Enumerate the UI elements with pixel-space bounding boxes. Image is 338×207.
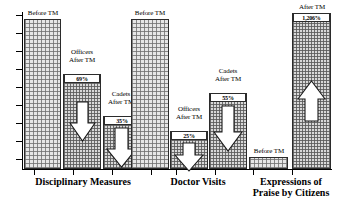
bar-doctor-before-tm	[131, 19, 169, 169]
bar-caption-praise-after-tm: After TM	[288, 3, 336, 11]
bar-value-praise-after-tm: 1,206%	[293, 13, 330, 22]
bar-caption-praise-before-tm: Before TM	[245, 147, 293, 155]
category-label-doctor-visits: Doctor Visits	[150, 176, 246, 187]
y-axis-tick	[16, 69, 22, 70]
up-arrow-icon-praise-after-tm	[297, 80, 326, 122]
bar-caption-doctor-cadets-after-tm: Cadets After TM	[204, 67, 252, 83]
bar-caption-doctor-officers-after-tm: Officers After TM	[165, 105, 213, 121]
y-axis-tick	[16, 159, 22, 160]
bar-caption-disciplinary-before-tm: Before TM	[20, 9, 66, 17]
bar-value-disciplinary-officers-after-tm: 69%	[64, 74, 100, 83]
y-axis-tick	[16, 105, 22, 106]
down-arrow-icon-doctor-cadets	[213, 105, 243, 152]
plot-area: Before TM Officers After TM 69% Cadets A…	[0, 0, 338, 172]
bar-praise-before-tm	[249, 157, 288, 169]
y-axis-tick	[16, 51, 22, 52]
x-axis-tick	[73, 170, 74, 175]
down-arrow-icon-disciplinary-officers	[69, 101, 96, 142]
bar-caption-doctor-before-tm: Before TM	[127, 9, 173, 17]
bar-value-doctor-cadets-after-tm: 55%	[210, 93, 246, 102]
y-axis-tick	[16, 33, 22, 34]
x-axis-tick	[292, 170, 293, 175]
y-axis-line	[22, 12, 23, 170]
y-axis-tick	[16, 123, 22, 124]
x-axis-tick	[215, 170, 216, 175]
bar-caption-disciplinary-officers-after-tm: Officers After TM	[58, 48, 106, 64]
bar-chart: Before TM Officers After TM 69% Cadets A…	[0, 0, 338, 207]
bar-value-doctor-officers-after-tm: 25%	[171, 131, 207, 140]
x-axis-tick	[151, 170, 152, 175]
y-axis-tick	[16, 141, 22, 142]
y-axis-tick	[16, 87, 22, 88]
category-label-expressions-of-praise: Expressions of Praise by Citizens	[244, 176, 338, 198]
bar-disciplinary-before-tm	[24, 19, 61, 169]
x-axis-tick	[112, 170, 113, 175]
x-axis-tick	[34, 170, 35, 175]
x-axis-tick	[253, 170, 254, 175]
down-arrow-icon-doctor-officers	[174, 142, 204, 172]
category-label-disciplinary-measures: Disciplinary Measures	[18, 176, 148, 187]
